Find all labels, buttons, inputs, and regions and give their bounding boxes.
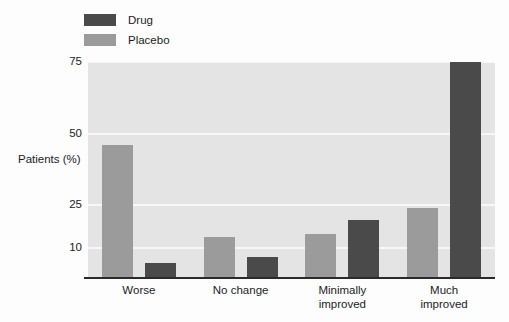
x-axis-tick-label-much-improved: Muchimproved	[393, 283, 495, 311]
plot-wrap	[88, 62, 495, 277]
legend-item-drug: Drug	[84, 12, 234, 28]
x-axis-tick-label-minimally-improved: Minimallyimproved	[292, 283, 394, 311]
bar-placebo-no-change	[204, 237, 235, 277]
legend-item-placebo: Placebo	[84, 32, 234, 48]
bar-drug-much-improved	[450, 62, 481, 277]
y-axis-tick-label-10: 10	[54, 242, 82, 254]
bar-group-no-change	[190, 62, 292, 277]
bar-drug-minimally-improved	[348, 220, 379, 277]
bar-series-container	[88, 62, 495, 277]
bar-drug-worse	[145, 263, 176, 277]
legend-swatch-placebo	[84, 34, 116, 46]
y-axis-tick-labels: 10255075	[52, 0, 82, 322]
x-axis-line	[84, 277, 495, 279]
x-axis-tick-label-line: Worse	[88, 283, 190, 297]
x-axis-tick-label-line: Minimally	[292, 283, 394, 297]
bar-placebo-minimally-improved	[305, 234, 336, 277]
y-axis-tick-label-50: 50	[54, 128, 82, 140]
x-axis-tick-label-no-change: No change	[190, 283, 292, 311]
x-axis-tick-label-line: Much	[393, 283, 495, 297]
legend-label-placebo: Placebo	[128, 34, 170, 46]
y-axis-tick-label-25: 25	[54, 199, 82, 211]
legend-swatch-drug	[84, 14, 116, 26]
bar-group-worse	[88, 62, 190, 277]
x-axis-tick-labels: WorseNo changeMinimallyimprovedMuchimpro…	[88, 283, 495, 311]
x-axis-tick-label-line: No change	[190, 283, 292, 297]
legend-label-drug: Drug	[128, 14, 153, 26]
plot-area	[88, 62, 495, 277]
x-axis-tick-label-worse: Worse	[88, 283, 190, 311]
chart-legend: Drug Placebo	[84, 12, 234, 52]
bar-placebo-worse	[102, 145, 133, 277]
bar-placebo-much-improved	[407, 208, 438, 277]
bar-group-much-improved	[393, 62, 495, 277]
bar-drug-no-change	[247, 257, 278, 277]
bar-group-minimally-improved	[292, 62, 394, 277]
x-axis-tick-label-line: improved	[393, 297, 495, 311]
bar-chart: Drug Placebo Patients (%) 10255075 Worse…	[0, 0, 509, 322]
y-axis-tick-label-75: 75	[54, 56, 82, 68]
x-axis-tick-label-line: improved	[292, 297, 394, 311]
